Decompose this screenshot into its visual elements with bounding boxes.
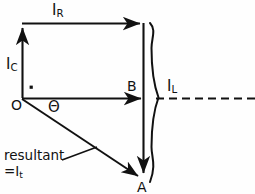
label-point-o: O	[11, 98, 22, 112]
phasor-diagram-figure: IR IC IL B O A Θ resultant=It	[0, 0, 255, 194]
right-angle-dot	[30, 86, 33, 89]
leader-line	[62, 147, 97, 160]
angle-arc	[43, 86, 46, 99]
label-ir: IR	[52, 3, 64, 19]
label-ic: IC	[6, 57, 18, 73]
curly-brace	[150, 23, 159, 182]
label-angle-theta: Θ	[48, 100, 60, 115]
label-il: IL	[167, 79, 177, 95]
label-resultant: resultant=It	[4, 148, 64, 180]
label-point-a: A	[137, 180, 147, 194]
label-point-b: B	[127, 79, 137, 93]
